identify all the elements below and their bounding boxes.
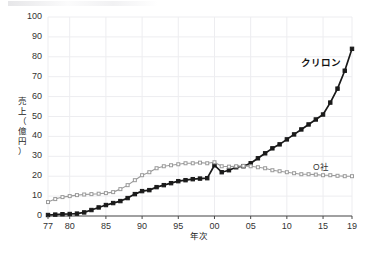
gridlines (48, 17, 352, 216)
series-layer (46, 47, 353, 217)
x-axis-label-text: 年次 (190, 231, 208, 241)
y-axis-label-char: 売 (14, 96, 30, 106)
y-tick-label: 20 (8, 170, 42, 180)
sales-line-chart: 0102030405060708090100 77808590950005101… (0, 0, 368, 254)
series-label-o-company: O社 (313, 160, 329, 172)
y-axis-label-char: 上 (14, 106, 30, 116)
chart-canvas (0, 0, 368, 254)
y-tick-label: 70 (8, 71, 42, 81)
y-tick-label: 0 (8, 210, 42, 220)
y-tick-label: 10 (8, 190, 42, 200)
series-label-kuriron: クリロン (301, 55, 341, 69)
y-tick-label: 80 (8, 51, 42, 61)
y-axis-label-char: （ (14, 116, 30, 126)
y-axis-label-char: 円 (14, 136, 30, 146)
y-axis-label-char: 億 (14, 126, 30, 136)
y-axis-label-char: ） (14, 146, 30, 156)
x-axis-label: 年次 (0, 229, 368, 241)
y-tick-label: 90 (8, 31, 42, 41)
y-axis-label: 売上（億円） (14, 96, 30, 156)
y-tick-label: 100 (8, 11, 42, 21)
